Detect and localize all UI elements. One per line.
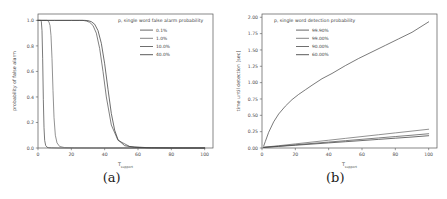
- x-tick-label: 60: [359, 152, 365, 157]
- caption-a: (a): [0, 170, 224, 185]
- y-tick-label: 0.2: [27, 120, 34, 125]
- series-line: [38, 20, 205, 148]
- x-tick-label: 80: [392, 152, 398, 157]
- subfigure-a: 0204060801000.00.20.40.60.81.0Tsupportpr…: [0, 0, 224, 199]
- y-tick-label: 0.0: [27, 146, 34, 151]
- legend-title: p, single word detection probability: [274, 18, 356, 23]
- y-tick-label: 0.4: [27, 95, 34, 100]
- legend-label: 10.0%: [156, 44, 170, 49]
- legend-label: 99.90%: [312, 28, 329, 33]
- series-line: [263, 134, 428, 148]
- chart-b-svg: 0204060801000.000.250.500.751.001.251.50…: [224, 0, 447, 172]
- y-tick-label: 0.6: [27, 69, 34, 74]
- legend-label: 99.00%: [312, 36, 329, 41]
- x-tick-label: 20: [292, 152, 298, 157]
- y-tick-label: 0.00: [247, 146, 257, 151]
- series-line: [38, 20, 205, 148]
- x-tick-label: 0: [260, 152, 263, 157]
- y-tick-label: 1.75: [247, 31, 257, 36]
- legend-label: 40.0%: [156, 52, 170, 57]
- legend-label: 90.00%: [312, 44, 329, 49]
- y-tick-label: 1.00: [247, 80, 257, 85]
- y-tick-label: 1.25: [247, 64, 257, 69]
- legend-label: 60.00%: [312, 52, 329, 57]
- legend-label: 1.0%: [156, 36, 167, 41]
- x-axis-label: Tsupport: [340, 162, 357, 169]
- y-tick-label: 0.50: [247, 113, 257, 118]
- x-tick-label: 80: [168, 152, 174, 157]
- y-axis-label: probability of false alarm: [12, 51, 17, 111]
- subfigure-b: 0204060801000.000.250.500.751.001.251.50…: [224, 0, 447, 199]
- x-tick-label: 40: [102, 152, 108, 157]
- y-axis-label: time until detection [sec]: [236, 51, 241, 112]
- y-tick-label: 0.8: [27, 44, 34, 49]
- x-tick-label: 20: [68, 152, 74, 157]
- chart-a-svg: 0204060801000.00.20.40.60.81.0Tsupportpr…: [0, 0, 224, 172]
- x-tick-label: 40: [325, 152, 331, 157]
- series-line: [38, 20, 205, 148]
- y-tick-label: 0.75: [247, 97, 257, 102]
- series-line: [263, 129, 428, 147]
- x-tick-label: 0: [37, 152, 40, 157]
- x-tick-label: 100: [200, 152, 209, 157]
- series-line: [38, 20, 205, 148]
- y-tick-label: 2.00: [247, 15, 257, 20]
- series-line: [263, 22, 428, 146]
- caption-b: (b): [224, 170, 447, 185]
- y-tick-label: 1.0: [27, 18, 34, 23]
- y-tick-label: 1.50: [247, 48, 257, 53]
- legend-title: p, single word false alarm probability: [118, 18, 203, 23]
- series-line: [263, 136, 428, 148]
- figure-container: 0204060801000.00.20.40.60.81.0Tsupportpr…: [0, 0, 447, 199]
- x-axis-label: Tsupport: [117, 162, 134, 169]
- plot-a: 0204060801000.00.20.40.60.81.0Tsupportpr…: [0, 0, 224, 172]
- legend-label: 0.1%: [156, 28, 167, 33]
- x-tick-label: 100: [424, 152, 433, 157]
- y-tick-label: 0.25: [247, 129, 257, 134]
- x-tick-label: 60: [135, 152, 141, 157]
- plot-b: 0204060801000.000.250.500.751.001.251.50…: [224, 0, 447, 172]
